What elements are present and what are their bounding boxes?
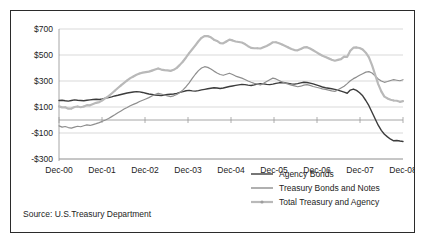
legend-label: Total Treasury and Agency xyxy=(279,197,380,207)
series-marker xyxy=(374,74,376,76)
series-marker xyxy=(368,56,370,58)
series-marker xyxy=(300,48,302,50)
x-tick-label: Dec-08 xyxy=(389,165,414,175)
series-marker xyxy=(362,49,364,51)
series-marker xyxy=(145,71,147,73)
series-marker xyxy=(343,56,345,58)
series-marker xyxy=(132,76,134,78)
series-marker xyxy=(58,105,60,107)
series-marker xyxy=(238,41,240,43)
chart-figure: $700$500$300$100-$100-$300 Dec-00Dec-01D… xyxy=(10,10,415,233)
series-marker xyxy=(95,102,97,104)
x-tick-label: Dec-02 xyxy=(131,165,159,175)
series-marker xyxy=(399,101,401,103)
series-marker xyxy=(213,39,215,41)
series-marker xyxy=(101,99,103,101)
series-marker xyxy=(294,49,296,51)
x-tick-label: Dec-01 xyxy=(88,165,116,175)
line-chart: $700$500$300$100-$100-$300 Dec-00Dec-01D… xyxy=(11,11,414,232)
series-marker xyxy=(393,100,395,102)
y-tick-label: $300 xyxy=(34,76,53,86)
series-marker xyxy=(139,73,141,75)
series-marker xyxy=(263,46,265,48)
x-tick-label: Dec-07 xyxy=(346,165,374,175)
series-marker xyxy=(349,50,351,52)
x-tick-label: Dec-03 xyxy=(174,165,202,175)
series-marker xyxy=(108,95,110,97)
series-marker xyxy=(380,91,382,93)
legend-label: Treasury Bonds and Notes xyxy=(279,183,380,193)
y-tick-label: $500 xyxy=(34,50,53,60)
y-tick-label: $100 xyxy=(34,102,53,112)
series-marker xyxy=(163,69,165,71)
y-tick-label: -$100 xyxy=(31,128,53,138)
series-marker xyxy=(387,98,389,100)
series-marker xyxy=(219,42,221,44)
series-marker xyxy=(70,108,72,110)
series-marker xyxy=(77,106,79,108)
series-marker xyxy=(114,90,116,92)
series-marker xyxy=(306,46,308,48)
series-marker xyxy=(207,35,209,37)
series-marker xyxy=(225,41,227,43)
series-marker xyxy=(120,85,122,87)
series-marker xyxy=(244,43,246,45)
series-marker xyxy=(318,53,320,55)
series-marker xyxy=(201,37,203,39)
legend-label: Agency Bonds xyxy=(279,169,334,179)
data-series xyxy=(58,35,403,141)
series-marker xyxy=(157,68,159,70)
y-tick-label: $700 xyxy=(34,24,53,34)
series-marker xyxy=(126,80,128,82)
series-marker xyxy=(312,49,314,51)
series-marker xyxy=(287,47,289,49)
x-axis-tick-labels: Dec-00Dec-01Dec-02Dec-03Dec-04Dec-05Dec-… xyxy=(45,117,414,175)
series-marker xyxy=(89,104,91,106)
series-marker xyxy=(356,47,358,49)
series-marker xyxy=(325,56,327,58)
series-marker xyxy=(331,59,333,61)
source-note: Source: U.S.Treasury Department xyxy=(23,209,152,219)
series-marker xyxy=(194,44,196,46)
series-marker xyxy=(170,70,172,72)
series-marker xyxy=(232,40,234,42)
series-marker xyxy=(176,67,178,69)
y-tick-label: -$300 xyxy=(31,154,53,164)
legend-marker xyxy=(260,200,263,203)
series-marker xyxy=(83,106,85,108)
series-marker xyxy=(188,52,190,54)
x-tick-label: Dec-00 xyxy=(45,165,73,175)
series-marker xyxy=(151,70,153,72)
series-marker xyxy=(64,106,66,108)
y-axis-tick-labels: $700$500$300$100-$100-$300 xyxy=(31,24,53,164)
series-marker xyxy=(275,41,277,43)
x-tick-label: Dec-04 xyxy=(217,165,245,175)
series-marker xyxy=(269,43,271,45)
series-marker xyxy=(250,47,252,49)
series-line xyxy=(59,82,403,141)
series-marker xyxy=(337,59,339,61)
series-marker xyxy=(281,44,283,46)
series-marker xyxy=(182,61,184,63)
series-marker xyxy=(256,47,258,49)
